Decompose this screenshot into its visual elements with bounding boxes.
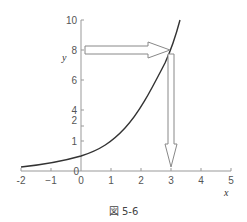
x-tick-label-4: 4 (198, 175, 204, 186)
y-tick-label-6: 6 (71, 75, 77, 86)
figure-caption: 図 5-6 (0, 203, 247, 218)
y-tick-label-1: 1 (71, 136, 77, 147)
x-tick-label-2: 2 (138, 175, 144, 186)
y-tick-label-2: 2 (71, 115, 77, 126)
y-tick-label-8: 8 (71, 45, 77, 56)
exponential-curve (21, 20, 180, 167)
x-tick-label-3: 3 (168, 175, 174, 186)
x-tick-label--2: -2 (17, 175, 26, 186)
horizontal-arrow (85, 42, 170, 58)
chart-canvas: 10 8 6 4 2 1 0 -2 −1 0 1 2 3 4 5 y x (0, 0, 247, 222)
x-axis-label: x (223, 187, 229, 198)
x-tick-label-1: 1 (108, 175, 114, 186)
x-tick-label--1: −1 (45, 175, 57, 186)
x-tick-label-5: 5 (228, 175, 234, 186)
x-tick-label-0: 0 (78, 175, 84, 186)
y-axis-label: y (61, 52, 67, 63)
vertical-arrow (165, 54, 177, 167)
y-tick-label-10: 10 (66, 15, 78, 26)
